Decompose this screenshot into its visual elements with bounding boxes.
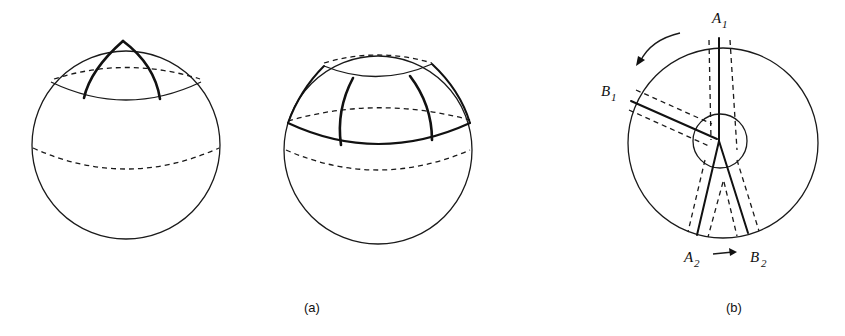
sphere-right [284, 55, 472, 244]
cut-a1-offset-right [730, 40, 737, 150]
cut-b2-offset-outer [737, 160, 759, 231]
caption-a: (a) [304, 300, 320, 315]
svg-text:A: A [711, 10, 722, 26]
sphere-right-cap-front [324, 64, 432, 77]
sphere-right-equator [286, 150, 470, 170]
rotation-arrowhead-top [636, 56, 645, 66]
sphere-right-outline [284, 56, 472, 244]
sphere-left-top-latitude-back [54, 68, 200, 80]
sphere-right-right-meridian [410, 76, 432, 140]
outer-circle [628, 48, 818, 238]
figure-canvas: (a) A 1 B 1 A 2 B 2 [0, 0, 845, 336]
label-b1: B 1 [601, 83, 617, 103]
svg-text:B: B [601, 83, 610, 99]
sphere-right-upper-band-back [288, 108, 470, 121]
cut-a2-offset-outer [688, 160, 705, 232]
svg-text:A: A [683, 249, 694, 265]
svg-text:1: 1 [611, 91, 617, 103]
svg-text:2: 2 [694, 257, 700, 269]
sphere-right-left-edge [288, 66, 324, 123]
sphere-left-right-arc [123, 41, 160, 99]
panel-b-disk [628, 33, 818, 256]
label-b2: B 2 [750, 249, 767, 269]
sphere-right-upper-band-front [288, 123, 470, 144]
sphere-left-outline [32, 51, 220, 239]
label-a2: A 2 [683, 249, 700, 269]
svg-text:2: 2 [761, 257, 767, 269]
label-a1: A 1 [711, 10, 728, 30]
rotation-arrow-top [640, 33, 680, 62]
caption-b: (b) [726, 300, 742, 315]
sphere-left-equator [33, 148, 219, 169]
sphere-left [32, 41, 220, 239]
svg-text:1: 1 [722, 18, 728, 30]
cut-a1-offset-left [709, 40, 711, 140]
sphere-left-top-latitude-front [51, 82, 201, 100]
svg-text:B: B [750, 249, 759, 265]
cut-a2-offset-inner [708, 182, 723, 237]
sphere-right-left-meridian [340, 78, 353, 145]
sphere-left-left-arc [84, 41, 123, 98]
cut-a2 [697, 141, 719, 235]
rotation-arrowhead-bottom [729, 248, 737, 256]
